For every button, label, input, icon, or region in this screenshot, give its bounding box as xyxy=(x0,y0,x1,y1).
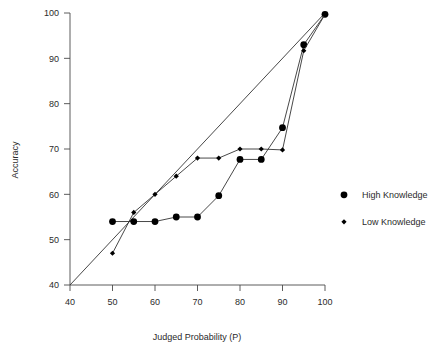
x-tick-label: 90 xyxy=(277,297,287,307)
x-tick-label: 70 xyxy=(192,297,202,307)
legend-label: High Knowledge xyxy=(362,190,428,200)
data-point-circle xyxy=(258,156,265,163)
data-point-circle xyxy=(237,156,244,163)
x-tick-label: 50 xyxy=(107,297,117,307)
x-tick-label: 100 xyxy=(317,297,332,307)
data-point-circle xyxy=(173,214,180,221)
data-point-circle xyxy=(109,218,116,225)
y-axis-title: Accuracy xyxy=(10,141,20,179)
x-tick-label: 80 xyxy=(235,297,245,307)
y-tick-label: 40 xyxy=(49,280,59,290)
legend-marker-circle xyxy=(341,191,348,198)
y-tick-label: 80 xyxy=(49,99,59,109)
data-point-circle xyxy=(130,218,137,225)
x-tick-label: 40 xyxy=(65,297,75,307)
data-point-circle xyxy=(215,192,222,199)
y-tick-label: 70 xyxy=(49,144,59,154)
legend-label: Low Knowledge xyxy=(362,217,426,227)
y-tick-label: 60 xyxy=(49,190,59,200)
x-axis-title: Judged Probability (P) xyxy=(153,332,242,342)
data-point-circle xyxy=(279,124,286,131)
y-tick-label: 50 xyxy=(49,235,59,245)
x-tick-label: 60 xyxy=(150,297,160,307)
chart-background xyxy=(0,0,438,363)
chart-figure: 405060708090100 405060708090100 Accuracy… xyxy=(0,0,438,363)
y-tick-label: 100 xyxy=(44,8,59,18)
y-tick-label: 90 xyxy=(49,54,59,64)
data-point-circle xyxy=(152,218,159,225)
data-point-circle xyxy=(194,214,201,221)
